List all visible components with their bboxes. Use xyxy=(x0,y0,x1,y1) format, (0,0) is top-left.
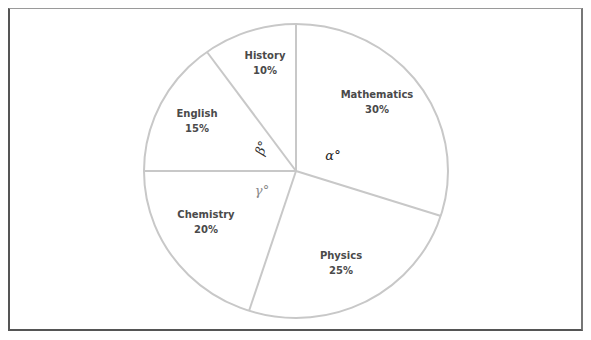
angle-gamma-label: γ° xyxy=(255,183,269,198)
slice-label-name: Mathematics xyxy=(341,89,414,100)
slice-label-name: Physics xyxy=(320,250,362,261)
angle-alpha-label: α° xyxy=(325,148,340,163)
slice-label-value: 30% xyxy=(365,104,389,115)
slice-label-value: 15% xyxy=(185,123,209,134)
slice-label-name: Chemistry xyxy=(177,209,235,220)
slice-label-value: 10% xyxy=(253,65,277,76)
slice-label-name: History xyxy=(245,50,286,61)
slice-label-name: English xyxy=(176,108,217,119)
pie-chart: Mathematics 30% Physics 25% Chemistry 20… xyxy=(0,0,591,340)
slice-label-value: 25% xyxy=(329,265,353,276)
slice-label-value: 20% xyxy=(194,224,218,235)
